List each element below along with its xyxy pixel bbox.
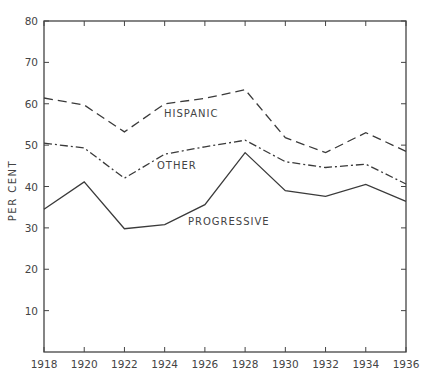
x-tick-label: 1924: [151, 358, 178, 370]
y-tick-label: 20: [25, 263, 38, 275]
x-tick-label: 1926: [192, 358, 219, 370]
series-label-progressive: PROGRESSIVE: [188, 216, 270, 227]
x-tick-label: 1922: [111, 358, 138, 370]
y-tick-label: 40: [25, 181, 38, 193]
x-tick-label: 1934: [352, 358, 379, 370]
y-axis-title: PER CENT: [7, 160, 18, 221]
x-tick-label: 1928: [232, 358, 259, 370]
x-tick-label: 1932: [312, 358, 339, 370]
x-tick-label: 1920: [71, 358, 98, 370]
x-tick-label: 1918: [31, 358, 58, 370]
series-line-other: [44, 140, 406, 184]
x-tick-label: 1936: [393, 358, 420, 370]
y-tick-label: 30: [25, 222, 38, 234]
y-tick-label: 60: [25, 98, 38, 110]
x-tick-label: 1930: [272, 358, 299, 370]
y-tick-label: 70: [25, 56, 38, 68]
y-tick-label: 10: [25, 305, 38, 317]
series-label-other: OTHER: [157, 160, 197, 171]
y-tick-label: 50: [25, 139, 38, 151]
y-tick-label: 80: [25, 15, 38, 27]
series-label-hispanic: HISPANIC: [164, 108, 218, 119]
plot-frame: [44, 21, 406, 352]
line-chart: 1020304050607080191819201922192419261928…: [0, 0, 436, 382]
